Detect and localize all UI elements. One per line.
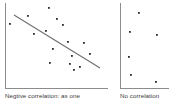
negative-correlation-scatter-plot	[0, 0, 112, 92]
data-point	[156, 34, 158, 36]
data-point	[69, 63, 71, 65]
data-point	[27, 15, 29, 17]
data-point	[83, 42, 85, 44]
data-point	[9, 23, 11, 25]
data-point	[130, 74, 132, 76]
data-point	[129, 31, 131, 33]
data-point	[73, 69, 75, 71]
data-point	[62, 24, 64, 26]
panel-negative-correlation: Negtive correlation: as one	[0, 0, 112, 106]
caption-negative-correlation: Negtive correlation: as one	[5, 92, 80, 100]
caption-no-correlation: No correlation	[120, 92, 159, 100]
data-point	[67, 41, 69, 43]
data-point	[155, 81, 157, 83]
data-point	[89, 53, 91, 55]
data-point	[33, 33, 35, 35]
data-points-negative	[9, 7, 91, 71]
data-point	[45, 30, 47, 32]
data-point	[128, 56, 130, 58]
axes-negative	[5, 3, 108, 89]
data-point	[48, 7, 50, 9]
data-points-none	[128, 12, 158, 83]
data-point	[56, 18, 58, 20]
no-correlation-scatter-plot	[112, 0, 169, 92]
panel-no-correlation: No correlation	[112, 0, 169, 106]
data-point	[71, 55, 73, 57]
trendline-negative	[14, 15, 100, 68]
axes-none	[120, 3, 169, 89]
data-point	[79, 66, 81, 68]
data-point	[49, 62, 51, 64]
data-point	[52, 48, 54, 50]
correlation-figure: Negtive correlation: as one No correlati…	[0, 0, 169, 106]
data-point	[138, 12, 140, 14]
